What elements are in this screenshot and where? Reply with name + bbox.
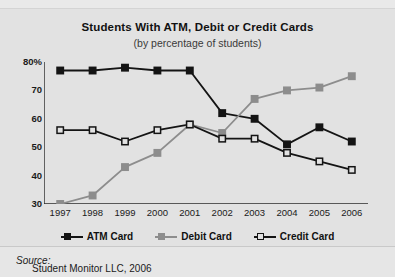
legend-marker-icon <box>254 232 276 242</box>
plot-area <box>44 62 374 204</box>
legend-item: ATM Card <box>61 231 133 242</box>
y-axis-tick-label: 60 <box>31 113 42 124</box>
data-point <box>122 64 128 70</box>
clipped-body-text-label: are debit cards while less than half use… <box>44 0 273 2</box>
y-axis-tick-label: 70 <box>31 84 42 95</box>
data-point <box>284 141 290 147</box>
legend-item: Credit Card <box>254 231 334 242</box>
data-point <box>187 121 193 127</box>
data-point <box>316 158 322 164</box>
legend-item: Debit Card <box>155 231 232 242</box>
y-axis-labels: 304050607080% <box>6 55 42 211</box>
data-point <box>284 87 290 93</box>
data-point <box>349 138 355 144</box>
source-text: Student Monitor LLC, 2006 <box>32 263 152 274</box>
line-chart-svg <box>44 62 374 204</box>
data-point <box>251 96 257 102</box>
chart-subtitle: (by percentage of students) <box>0 37 395 49</box>
data-point <box>57 127 63 133</box>
y-axis-tick-label: 40 <box>31 170 42 181</box>
figure-panel: Students With ATM, Debit or Credit Cards… <box>0 8 395 247</box>
legend-label: Credit Card <box>280 231 334 242</box>
data-point <box>219 135 225 141</box>
legend-marker-icon <box>61 232 83 242</box>
x-axis-tick-label: 2006 <box>332 207 372 218</box>
data-point <box>154 67 160 73</box>
source-caption: Source: Student Monitor LLC, 2006 <box>0 246 395 277</box>
data-point <box>349 167 355 173</box>
data-point <box>187 67 193 73</box>
data-point <box>316 124 322 130</box>
data-point <box>349 73 355 79</box>
x-axis-labels: 1997199819992000200120022003200420052006 <box>44 207 374 221</box>
y-axis-tick-label: 50 <box>31 141 42 152</box>
data-point <box>89 67 95 73</box>
legend-label: Debit Card <box>181 231 232 242</box>
data-point <box>122 138 128 144</box>
data-point <box>57 201 63 204</box>
data-point <box>284 150 290 156</box>
data-point <box>57 67 63 73</box>
data-point <box>89 127 95 133</box>
data-point <box>251 116 257 122</box>
chart-title: Students With ATM, Debit or Credit Cards <box>0 21 395 33</box>
legend-marker-icon <box>155 232 177 242</box>
chart-legend: ATM CardDebit CardCredit Card <box>0 231 395 242</box>
data-point <box>89 192 95 198</box>
data-point <box>122 164 128 170</box>
data-point <box>219 110 225 116</box>
y-axis-tick-label: 80% <box>23 56 42 67</box>
data-point <box>251 135 257 141</box>
data-point <box>316 84 322 90</box>
legend-label: ATM Card <box>87 231 133 242</box>
data-point <box>154 150 160 156</box>
data-point <box>154 127 160 133</box>
